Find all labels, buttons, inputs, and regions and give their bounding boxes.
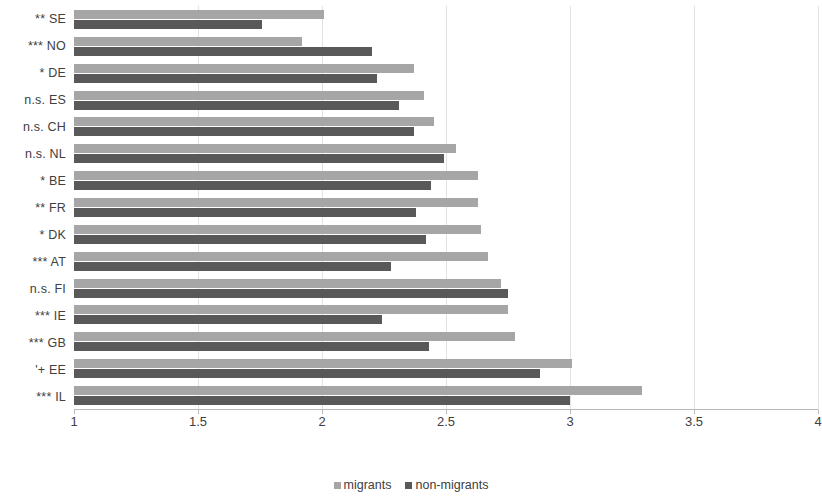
- bar-migrants: [74, 10, 324, 19]
- bar-group: [74, 60, 818, 87]
- category-label: *** NO: [0, 33, 70, 60]
- bar-migrants: [74, 198, 478, 207]
- category-label: ** SE: [0, 6, 70, 33]
- x-axis-tick-label: 3.5: [685, 414, 703, 429]
- category-label: * BE: [0, 168, 70, 195]
- x-axis-tick-label: 1: [70, 414, 77, 429]
- bar-group: [74, 382, 818, 409]
- legend-item-migrants: migrants: [334, 478, 392, 492]
- x-axis-tick-label: 2: [318, 414, 325, 429]
- bar-group: [74, 167, 818, 194]
- category-axis-labels: ** SE*** NO* DEn.s. ESn.s. CHn.s. NL* BE…: [0, 6, 70, 410]
- category-label: n.s. FI: [0, 275, 70, 302]
- bar-rows: [74, 6, 818, 409]
- category-label: ** FR: [0, 195, 70, 222]
- bar-non-migrants: [74, 181, 431, 190]
- bar-group: [74, 355, 818, 382]
- x-axis-tick-label: 3: [566, 414, 573, 429]
- bar-group: [74, 113, 818, 140]
- bar-group: [74, 6, 818, 33]
- bar-group: [74, 248, 818, 275]
- bar-migrants: [74, 332, 515, 341]
- bar-group: [74, 275, 818, 302]
- bar-non-migrants: [74, 74, 377, 83]
- bar-migrants: [74, 64, 414, 73]
- bar-migrants: [74, 171, 478, 180]
- bar-non-migrants: [74, 127, 414, 136]
- category-label: '+ EE: [0, 356, 70, 383]
- category-label: n.s. ES: [0, 87, 70, 114]
- bar-non-migrants: [74, 262, 391, 271]
- bar-group: [74, 140, 818, 167]
- bar-group: [74, 194, 818, 221]
- bar-non-migrants: [74, 101, 399, 110]
- legend-swatch-migrants-icon: [334, 482, 341, 489]
- category-label: *** IL: [0, 383, 70, 410]
- bar-non-migrants: [74, 235, 426, 244]
- bar-group: [74, 87, 818, 114]
- bar-migrants: [74, 279, 501, 288]
- gridline: [818, 6, 819, 410]
- bar-migrants: [74, 386, 642, 395]
- bar-migrants: [74, 305, 508, 314]
- bar-migrants: [74, 252, 488, 261]
- legend-label-migrants: migrants: [344, 478, 392, 492]
- bar-migrants: [74, 37, 302, 46]
- category-label: *** GB: [0, 329, 70, 356]
- chart-legend: migrants non-migrants: [0, 478, 822, 492]
- bar-group: [74, 301, 818, 328]
- category-label: * DE: [0, 60, 70, 87]
- bar-chart: ** SE*** NO* DEn.s. ESn.s. CHn.s. NL* BE…: [0, 0, 822, 503]
- legend-label-non-migrants: non-migrants: [415, 478, 488, 492]
- bar-migrants: [74, 117, 434, 126]
- category-label: * DK: [0, 222, 70, 249]
- legend-swatch-non-migrants-icon: [405, 482, 412, 489]
- x-axis-tick-label: 1.5: [189, 414, 207, 429]
- legend-item-non-migrants: non-migrants: [405, 478, 488, 492]
- bar-non-migrants: [74, 315, 382, 324]
- bar-migrants: [74, 91, 424, 100]
- category-label: n.s. CH: [0, 114, 70, 141]
- x-axis-tick-label: 4: [814, 414, 821, 429]
- category-label: *** AT: [0, 248, 70, 275]
- category-label: n.s. NL: [0, 141, 70, 168]
- bar-non-migrants: [74, 342, 429, 351]
- bar-non-migrants: [74, 208, 416, 217]
- bar-non-migrants: [74, 154, 444, 163]
- plot-area: [74, 6, 818, 410]
- category-label: *** IE: [0, 302, 70, 329]
- bar-migrants: [74, 359, 572, 368]
- bar-non-migrants: [74, 369, 540, 378]
- bar-non-migrants: [74, 47, 372, 56]
- x-axis-tick-label: 2.5: [437, 414, 455, 429]
- x-axis-tick-labels: 11.522.533.54: [74, 414, 818, 440]
- bar-migrants: [74, 144, 456, 153]
- bar-non-migrants: [74, 20, 262, 29]
- bar-migrants: [74, 225, 481, 234]
- bar-non-migrants: [74, 396, 570, 405]
- bar-group: [74, 221, 818, 248]
- bar-group: [74, 328, 818, 355]
- bar-non-migrants: [74, 289, 508, 298]
- bar-group: [74, 33, 818, 60]
